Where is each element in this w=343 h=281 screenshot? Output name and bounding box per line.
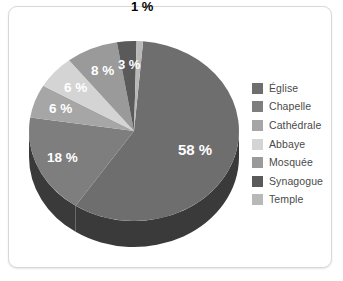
legend-item-label: Mosquée bbox=[269, 157, 313, 168]
legend-swatch-icon bbox=[252, 157, 263, 168]
legend-item-label: Cathédrale bbox=[269, 120, 321, 131]
legend-item[interactable]: Temple bbox=[252, 191, 332, 210]
legend-item[interactable]: Synagogue bbox=[252, 172, 332, 191]
legend-item-label: Chapelle bbox=[269, 101, 311, 112]
legend-item[interactable]: Chapelle bbox=[252, 98, 332, 117]
legend-swatch-icon bbox=[252, 101, 263, 112]
legend-swatch-icon bbox=[252, 120, 263, 131]
legend-item[interactable]: Cathédrale bbox=[252, 116, 332, 135]
legend-item[interactable]: Église bbox=[252, 79, 332, 98]
legend-item-label: Synagogue bbox=[269, 176, 323, 187]
legend-swatch-icon bbox=[252, 83, 263, 94]
chart-legend: ÉgliseChapelleCathédraleAbbayeMosquéeSyn… bbox=[252, 79, 332, 209]
legend-item-label: Temple bbox=[269, 194, 303, 205]
legend-item[interactable]: Mosquée bbox=[252, 153, 332, 172]
pie-slices bbox=[29, 41, 239, 221]
legend-swatch-icon bbox=[252, 176, 263, 187]
legend-item-label: Abbaye bbox=[269, 139, 305, 150]
legend-swatch-icon bbox=[252, 194, 263, 205]
chart-card: 58 %18 %6 %6 %8 %3 %1 % ÉgliseChapelleCa… bbox=[8, 6, 332, 268]
legend-item-label: Église bbox=[269, 83, 298, 94]
legend-item[interactable]: Abbaye bbox=[252, 135, 332, 154]
legend-swatch-icon bbox=[252, 139, 263, 150]
